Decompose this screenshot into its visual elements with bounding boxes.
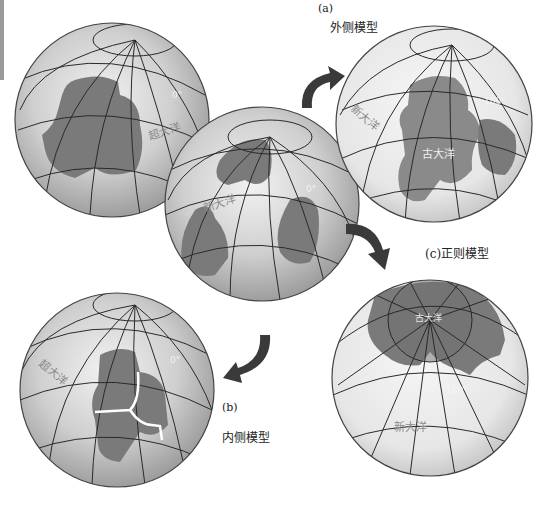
new-ocean-label: 新大洋 [394, 420, 427, 434]
part-a-label: (a) [318, 2, 333, 15]
old-ocean-label: 古大洋 [415, 312, 442, 323]
arrow-to-inner-model [223, 335, 270, 383]
inner-model-label: 内侧模型 [222, 428, 270, 445]
part-b-label: (b) [222, 401, 238, 414]
outer-model-label: 外侧模型 [330, 18, 378, 35]
meridian-label: 0° [172, 90, 182, 100]
old-ocean-label: 古大洋 [422, 147, 455, 161]
globe-bottom-right [332, 278, 528, 476]
orthogonal-model-label: (c)正则模型 [425, 244, 489, 261]
meridian-label: 0° [306, 184, 316, 194]
meridian-label: 0° [170, 355, 180, 365]
arrow-to-orthogonal-model [346, 224, 390, 270]
meridian-label: 180° [484, 96, 506, 106]
globe-center [165, 107, 360, 301]
globe-bottom-left [20, 289, 214, 487]
meridian-label: 180° [446, 385, 468, 395]
